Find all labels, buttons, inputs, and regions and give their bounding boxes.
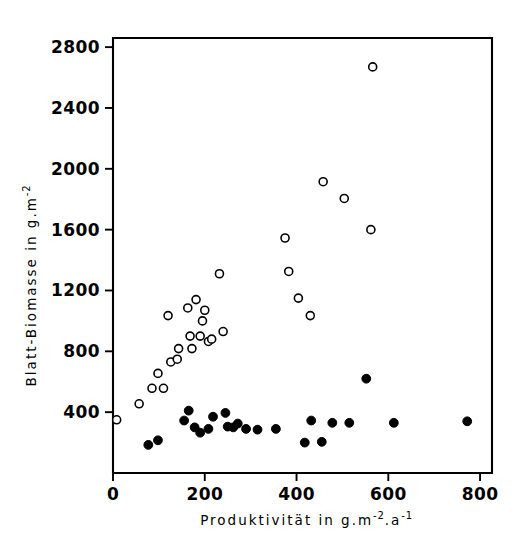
data-point-filled: [154, 436, 163, 445]
data-point-open: [173, 355, 181, 363]
data-point-filled: [271, 424, 280, 433]
data-point-filled: [307, 416, 316, 425]
data-point-open: [369, 63, 377, 71]
y-tick-label-1200: 1200: [51, 280, 100, 300]
data-point-filled: [362, 374, 371, 383]
data-point-open: [148, 384, 156, 392]
data-point-open: [154, 369, 162, 377]
data-point-filled: [180, 416, 189, 425]
data-point-open: [192, 296, 200, 304]
data-point-open: [367, 226, 375, 234]
data-point-open: [186, 332, 194, 340]
data-point-open: [285, 267, 293, 275]
data-point-open: [219, 328, 227, 336]
axes-box: [113, 38, 492, 473]
y-axis-title-text: Blatt-Biomasse in g.m-2: [21, 185, 39, 387]
data-point-open: [164, 312, 172, 320]
data-point-filled: [242, 424, 251, 433]
data-point-filled: [300, 438, 309, 447]
x-axis-title: Produktivität in g.m-2.a-1: [200, 510, 413, 528]
data-point-open: [159, 384, 167, 392]
y-tick-label-2800: 2800: [51, 37, 100, 57]
data-point-open: [215, 270, 223, 278]
y-tick-label-2400: 2400: [51, 98, 100, 118]
data-point-open: [340, 194, 348, 202]
data-point-filled: [463, 417, 472, 426]
data-point-open: [294, 294, 302, 302]
x-tick-label-0: 0: [107, 484, 119, 504]
data-point-filled: [233, 419, 242, 428]
x-tick-label-800: 800: [462, 484, 499, 504]
data-point-filled: [328, 418, 337, 427]
y-axis-ticks: [105, 47, 113, 412]
data-point-open: [208, 335, 216, 343]
data-point-filled: [209, 412, 218, 421]
data-point-open: [198, 317, 206, 325]
data-point-open: [184, 304, 192, 312]
x-tick-label-600: 600: [370, 484, 407, 504]
data-point-filled: [204, 424, 213, 433]
data-point-open: [113, 416, 121, 424]
x-axis-ticks: [113, 473, 480, 481]
scatter-plot: 0200400600800 40080012001600200024002800…: [0, 0, 525, 560]
y-axis-tick-labels: 40080012001600200024002800: [51, 37, 100, 422]
data-point-filled: [253, 425, 262, 434]
data-point-open: [135, 400, 143, 408]
data-point-filled: [196, 428, 205, 437]
data-point-open: [201, 306, 209, 314]
y-tick-label-1600: 1600: [51, 220, 100, 240]
x-tick-label-400: 400: [278, 484, 315, 504]
figure-container: 0200400600800 40080012001600200024002800…: [0, 0, 525, 560]
data-point-filled: [389, 418, 398, 427]
data-point-filled: [144, 440, 153, 449]
data-point-open: [281, 234, 289, 242]
x-axis-tick-labels: 0200400600800: [107, 484, 499, 504]
y-tick-label-800: 800: [63, 341, 100, 361]
y-axis-title: Blatt-Biomasse in g.m-2: [21, 185, 39, 387]
plot-frame: [113, 38, 492, 473]
x-axis-title-text: Produktivität in g.m-2.a-1: [200, 510, 413, 528]
data-point-filled: [221, 409, 230, 418]
y-tick-label-400: 400: [63, 402, 100, 422]
data-point-open: [319, 178, 327, 186]
data-point-open: [175, 345, 183, 353]
y-tick-label-2000: 2000: [51, 159, 100, 179]
data-point-open: [196, 332, 204, 340]
data-points: [113, 63, 472, 449]
x-tick-label-200: 200: [186, 484, 223, 504]
data-point-open: [188, 345, 196, 353]
data-point-open: [306, 312, 314, 320]
data-point-filled: [317, 437, 326, 446]
data-point-filled: [184, 406, 193, 415]
data-point-filled: [345, 418, 354, 427]
